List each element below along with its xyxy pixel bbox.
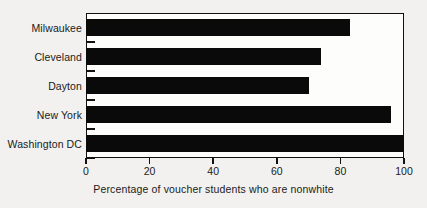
bar-row	[86, 135, 404, 152]
bar-row	[86, 106, 404, 123]
x-tick	[276, 158, 278, 164]
category-tick	[86, 128, 95, 130]
category-tick	[86, 70, 95, 72]
category-tick	[86, 157, 95, 159]
category-label-milwaukee: Milwaukee	[0, 22, 82, 34]
category-tick	[86, 41, 95, 43]
category-label-cleveland: Cleveland	[0, 51, 82, 63]
x-tick-label: 40	[207, 165, 219, 177]
bar-milwaukee	[86, 19, 350, 36]
bars-container	[86, 13, 404, 158]
x-tick	[403, 158, 405, 164]
x-tick	[340, 158, 342, 164]
bar-row	[86, 48, 404, 65]
x-tick-label: 0	[83, 165, 89, 177]
x-tick	[149, 158, 151, 164]
bar-chart: MilwaukeeClevelandDaytonNew YorkWashingt…	[0, 0, 427, 208]
category-label-new-york: New York	[0, 109, 82, 121]
category-label-dayton: Dayton	[0, 80, 82, 92]
x-tick-label: 100	[395, 165, 413, 177]
bar-washington-dc	[86, 135, 404, 152]
category-label-washington-dc: Washington DC	[0, 138, 82, 150]
bar-cleveland	[86, 48, 321, 65]
x-tick-label: 60	[271, 165, 283, 177]
bar-row	[86, 19, 404, 36]
bar-dayton	[86, 77, 309, 94]
bar-row	[86, 77, 404, 94]
x-tick-label: 80	[335, 165, 347, 177]
x-tick	[85, 158, 87, 164]
bar-new-york	[86, 106, 391, 123]
x-tick	[212, 158, 214, 164]
x-axis-title: Percentage of voucher students who are n…	[0, 183, 427, 195]
category-tick	[86, 99, 95, 101]
x-tick-label: 20	[144, 165, 156, 177]
